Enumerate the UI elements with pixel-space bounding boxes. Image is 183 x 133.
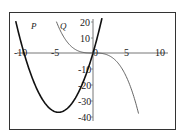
y-tick-label: -40 bbox=[78, 112, 91, 123]
x-tick-label: -5 bbox=[51, 47, 59, 58]
curve-label-q: Q bbox=[60, 21, 67, 31]
x-tick-label: 5 bbox=[124, 47, 129, 58]
y-tick-label: 20 bbox=[80, 17, 90, 28]
y-tick-label: -30 bbox=[78, 96, 91, 107]
curve-label-p: P bbox=[30, 21, 37, 31]
x-tick-label: 10 bbox=[155, 47, 165, 58]
y-tick-label: 10 bbox=[80, 33, 90, 44]
chart: -10 -5 0 5 10 20 10 -10 -20 -30 -40 P Q bbox=[0, 0, 183, 133]
